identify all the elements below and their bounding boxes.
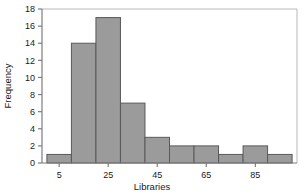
histogram-bar xyxy=(71,43,96,163)
chart-canvas: 024681012141618 525456585 Libraries Freq… xyxy=(0,0,305,194)
y-tick-label: 0 xyxy=(30,158,35,168)
histogram-bar xyxy=(219,154,244,163)
chart-background xyxy=(0,0,305,194)
y-tick-label: 18 xyxy=(25,4,35,14)
histogram-chart: 024681012141618 525456585 Libraries Freq… xyxy=(0,0,305,194)
histogram-bar xyxy=(243,146,268,163)
y-tick-label: 2 xyxy=(30,141,35,151)
y-tick-label: 12 xyxy=(25,56,35,66)
x-tick-label: 45 xyxy=(152,170,162,180)
y-tick-label: 10 xyxy=(25,73,35,83)
histogram-bar xyxy=(96,18,121,163)
histogram-bar xyxy=(194,146,219,163)
x-tick-label: 65 xyxy=(201,170,211,180)
x-axis-title: Libraries xyxy=(134,181,171,192)
histogram-bar xyxy=(47,154,72,163)
histogram-bar xyxy=(268,154,293,163)
x-tick-label: 85 xyxy=(250,170,260,180)
x-tick-label: 25 xyxy=(103,170,113,180)
y-tick-label: 8 xyxy=(30,90,35,100)
x-tick-label: 5 xyxy=(57,170,62,180)
histogram-bar xyxy=(120,103,145,163)
y-tick-label: 6 xyxy=(30,107,35,117)
y-tick-label: 16 xyxy=(25,21,35,31)
histogram-bar xyxy=(145,137,170,163)
histogram-bar xyxy=(170,146,195,163)
y-axis-title: Frequency xyxy=(2,63,13,108)
y-tick-label: 4 xyxy=(30,124,35,134)
y-tick-label: 14 xyxy=(25,38,35,48)
